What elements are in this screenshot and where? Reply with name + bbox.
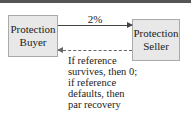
top-border bbox=[0, 0, 191, 3]
protection-seller-node: Protection Seller bbox=[132, 19, 180, 61]
premium-arrow bbox=[58, 25, 132, 26]
protection-seller-label: Protection Seller bbox=[133, 27, 179, 53]
premium-label: 2% bbox=[80, 13, 110, 25]
payoff-arrow bbox=[58, 50, 132, 51]
payoff-label: If reference survives, then 0; if refere… bbox=[68, 55, 138, 110]
protection-buyer-label: Protection Buyer bbox=[9, 23, 57, 49]
protection-buyer-node: Protection Buyer bbox=[8, 15, 58, 57]
